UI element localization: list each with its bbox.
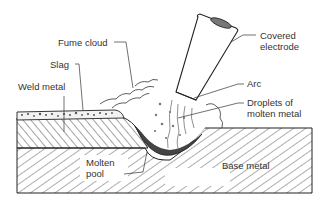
label-weld-metal: Weld metal (18, 81, 65, 92)
label-droplets-1: Droplets of (247, 97, 293, 108)
leader-fume-cloud (114, 42, 133, 88)
label-slag: Slag (50, 59, 69, 70)
slag-layer (17, 110, 124, 120)
weld-metal (17, 116, 148, 148)
label-arc: Arc (247, 78, 261, 89)
label-covered-electrode-1: Covered (260, 30, 296, 41)
label-covered-electrode-2: electrode (260, 41, 299, 52)
label-fume-cloud: Fume cloud (58, 37, 108, 48)
leader-slag (75, 64, 83, 110)
label-base-metal: Base metal (222, 160, 270, 171)
label-molten-pool-1: Molten (86, 157, 115, 168)
label-droplets-2: molten metal (247, 108, 301, 119)
label-molten-pool-2: pool (86, 168, 104, 179)
